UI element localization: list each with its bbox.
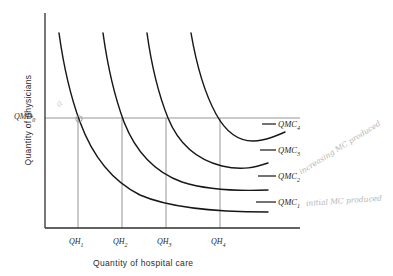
x-tick-label-qh3-text: QH [157, 237, 169, 246]
curve-label-qmc4-text: QMC [278, 119, 297, 129]
curve-qmc1 [59, 33, 268, 212]
curve-label-qmc1-sub: 1 [297, 203, 300, 209]
curve-label-qmc2-sub: 2 [297, 177, 300, 183]
curve-qmc2 [103, 33, 268, 190]
x-tick-label-qh4: QH4 [211, 237, 226, 248]
curve-label-qmc3: QMC3 [278, 145, 300, 157]
x-tick-label-qh2-sub: 2 [125, 242, 128, 248]
x-tick-label-qh4-sub: 4 [223, 242, 226, 248]
y-tick-label-qmd0: QMD0 [14, 112, 35, 123]
x-tick-label-qh1: QH1 [69, 237, 84, 248]
curve-qmc3 [147, 33, 268, 168]
x-tick-label-qh2-text: QH [113, 237, 125, 246]
x-tick-label-qh4-text: QH [211, 237, 223, 246]
curve-label-qmc3-sub: 3 [297, 151, 300, 157]
curve-label-qmc1: QMC1 [278, 197, 300, 209]
x-tick-label-qh1-text: QH [69, 237, 81, 246]
diagram-canvas [0, 0, 393, 276]
curve-label-qmc2-text: QMC [278, 171, 297, 181]
curve-label-qmc4: QMC4 [278, 119, 300, 131]
y-tick-label-qmd0-sub: 0 [32, 117, 35, 123]
x-tick-label-qh3-sub: 3 [169, 242, 172, 248]
curve-label-qmc2: QMC2 [278, 171, 300, 183]
economics-diagram: Quantity of physicians Quantity of hospi… [0, 0, 393, 276]
curve-label-qmc4-sub: 4 [297, 125, 300, 131]
curve-label-qmc1-text: QMC [278, 197, 297, 207]
x-axis-title: Quantity of hospital care [93, 258, 193, 268]
curve-label-qmc3-text: QMC [278, 145, 297, 155]
y-tick-label-qmd0-text: QMD [14, 112, 32, 121]
x-tick-label-qh1-sub: 1 [81, 242, 84, 248]
curve-qmc4 [191, 33, 285, 141]
x-tick-label-qh3: QH3 [157, 237, 172, 248]
x-tick-label-qh2: QH2 [113, 237, 128, 248]
